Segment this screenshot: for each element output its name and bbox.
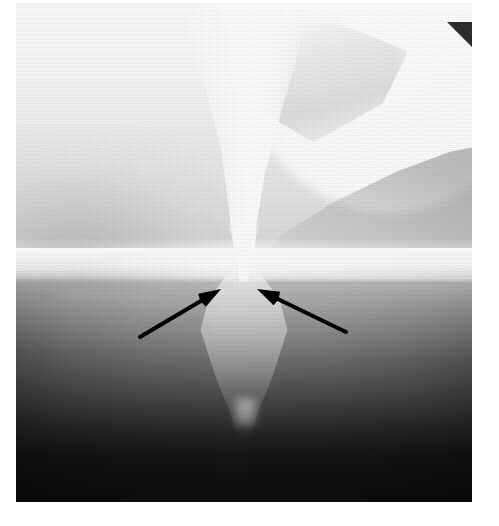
radiograph-viewer <box>0 0 499 526</box>
arrow-right <box>257 289 346 332</box>
arrow-left-head <box>198 289 221 307</box>
arrow-left-shaft <box>140 299 205 337</box>
annotation-overlay <box>0 0 499 526</box>
arrow-right-shaft <box>274 297 346 332</box>
arrow-left <box>140 289 221 337</box>
arrow-right-head <box>257 289 280 305</box>
arrow-group <box>140 289 346 337</box>
